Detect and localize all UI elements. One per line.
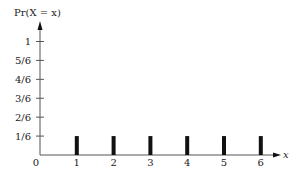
bars — [75, 136, 263, 155]
bar — [112, 136, 116, 155]
y-tick-label: 4/6 — [15, 74, 31, 85]
y-tick-label: 3/6 — [15, 93, 31, 104]
bar — [185, 136, 189, 155]
y-tick-label: 5/6 — [15, 55, 31, 66]
bar — [222, 136, 226, 155]
y-tick-label: 1 — [25, 36, 31, 47]
x-axis-label: x — [283, 149, 289, 160]
y-tick-label: 1/6 — [15, 131, 31, 142]
bar — [259, 136, 263, 155]
y-axis-label: Pr(X = x) — [14, 7, 61, 18]
x-axis-arrow-icon — [273, 153, 281, 158]
axes — [36, 21, 281, 158]
x-tick-label: 2 — [110, 157, 116, 168]
x-tick-label: 1 — [74, 157, 80, 168]
pmf-chart: 1/62/63/64/65/611234560xPr(X = x) — [0, 0, 301, 178]
bar — [75, 136, 79, 155]
x-tick-label: 6 — [258, 157, 264, 168]
y-axis-arrow-icon — [38, 21, 43, 30]
y-tick-label: 2/6 — [15, 112, 31, 123]
bar — [148, 136, 152, 155]
x-tick-label: 3 — [147, 157, 153, 168]
x-tick-label: 4 — [184, 157, 190, 168]
origin-label: 0 — [33, 157, 39, 168]
x-tick-label: 5 — [221, 157, 227, 168]
